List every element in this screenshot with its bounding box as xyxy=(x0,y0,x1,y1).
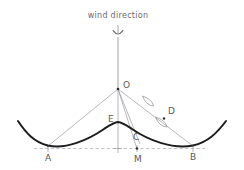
angle-markers-group xyxy=(143,96,168,127)
wind-direction-axis-group xyxy=(113,25,123,88)
label-point-o: O xyxy=(123,80,130,90)
terrain-wave-curve xyxy=(18,121,226,146)
angle-marker-upper xyxy=(143,96,154,106)
point-dot-m xyxy=(136,147,138,149)
point-dot-b xyxy=(192,145,194,147)
label-point-m: M xyxy=(134,154,142,164)
diagram-canvas: wind direction O A B C D E M xyxy=(0,0,244,170)
point-dot-o xyxy=(117,88,120,91)
wind-direction-title: wind direction xyxy=(88,11,149,20)
label-point-e: E xyxy=(108,114,114,124)
label-point-b: B xyxy=(190,152,196,162)
label-point-a: A xyxy=(45,153,52,163)
point-dot-a xyxy=(47,145,49,147)
label-point-c: C xyxy=(133,132,139,142)
rays-from-o-group xyxy=(48,89,193,153)
wind-direction-diagram: wind direction O A B C D E M xyxy=(0,0,244,170)
label-point-d: D xyxy=(168,106,175,116)
point-dot-d xyxy=(163,117,165,119)
